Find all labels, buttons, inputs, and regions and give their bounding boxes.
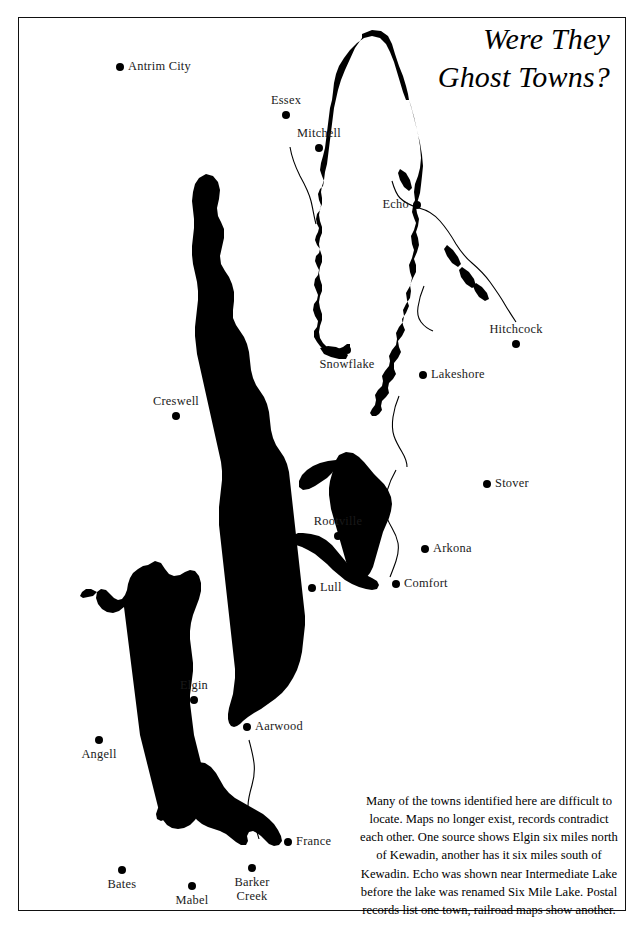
- town-label: France: [296, 834, 331, 849]
- town-label: Arkona: [433, 541, 472, 556]
- town-dot-icon: [284, 838, 292, 846]
- town-label: Stover: [495, 476, 529, 491]
- town-label: Mitchell: [297, 126, 341, 141]
- town-dot-icon: [190, 696, 198, 704]
- town-dot-icon: [315, 144, 323, 152]
- town-label: Essex: [271, 93, 301, 108]
- map-page: Were They Ghost Towns? Many of the towns…: [0, 0, 644, 933]
- town-label: Angell: [81, 747, 116, 762]
- town-label: Lull: [320, 580, 342, 595]
- town-label: Snowflake: [319, 357, 374, 372]
- page-title: Were They Ghost Towns?: [280, 20, 610, 95]
- town-dot-icon: [421, 545, 429, 553]
- town-dot-icon: [392, 580, 400, 588]
- town-dot-icon: [343, 346, 351, 354]
- town-label: Antrim City: [128, 59, 191, 74]
- town-label: Aarwood: [255, 719, 303, 734]
- town-dot-icon: [483, 480, 491, 488]
- town-dot-icon: [413, 201, 421, 209]
- town-dot-icon: [188, 882, 196, 890]
- town-label: Barker Creek: [223, 875, 281, 904]
- town-dot-icon: [334, 532, 342, 540]
- town-dot-icon: [512, 340, 520, 348]
- town-label: Comfort: [404, 576, 448, 591]
- town-dot-icon: [419, 371, 427, 379]
- town-dot-icon: [248, 864, 256, 872]
- town-dot-icon: [118, 866, 126, 874]
- town-label: Bates: [108, 877, 137, 892]
- town-label: Lakeshore: [431, 367, 485, 382]
- town-label: Echo: [383, 197, 409, 212]
- town-dot-icon: [116, 63, 124, 71]
- town-dot-icon: [95, 736, 103, 744]
- town-label: Elgin: [180, 678, 208, 693]
- town-label: Mabel: [176, 893, 209, 908]
- title-line-2: Ghost Towns?: [280, 58, 610, 96]
- town-label: Hitchcock: [489, 322, 542, 337]
- town-dot-icon: [243, 723, 251, 731]
- title-line-1: Were They: [280, 20, 610, 58]
- caption-text: Many of the towns identified here are di…: [358, 792, 620, 919]
- town-dot-icon: [172, 412, 180, 420]
- page-frame: [18, 17, 626, 911]
- town-dot-icon: [282, 111, 290, 119]
- town-label: Creswell: [153, 394, 199, 409]
- map-caption: Many of the towns identified here are di…: [358, 792, 620, 919]
- town-dot-icon: [308, 584, 316, 592]
- town-label: Rootville: [314, 514, 362, 529]
